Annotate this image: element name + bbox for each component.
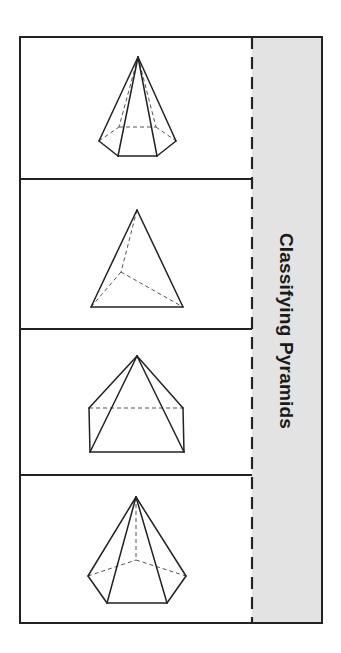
flap-4-pentagonal-pyramid[interactable] bbox=[88, 497, 186, 603]
flap-1-hexagonal-pyramid[interactable] bbox=[99, 57, 176, 156]
flap-2-triangular-pyramid[interactable] bbox=[91, 210, 183, 307]
flaps bbox=[20, 57, 252, 603]
flap-3-rectangular-pyramid[interactable] bbox=[89, 356, 184, 452]
foldable-worksheet: Classifying Pyramids bbox=[0, 0, 341, 653]
title-tab-label: Classifying Pyramids bbox=[275, 233, 297, 429]
